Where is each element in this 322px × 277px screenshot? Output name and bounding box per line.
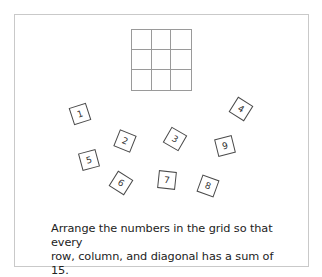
tile-label: 8 (204, 181, 212, 191)
tile-label: 4 (236, 104, 246, 115)
grid-cell-r3-c1[interactable] (132, 70, 152, 90)
tile-label: 5 (85, 155, 93, 165)
grid-cell-r2-c1[interactable] (132, 50, 152, 70)
instructions-line-2: row, column, and diagonal has a sum of 1… (51, 250, 291, 277)
magic-square-grid (131, 29, 192, 91)
tile-label: 2 (121, 136, 130, 146)
grid-cell-r3-c3[interactable] (171, 70, 191, 90)
instructions-line-1: Arrange the numbers in the grid so that … (51, 222, 291, 250)
grid-cell-r2-c2[interactable] (152, 50, 172, 70)
tile-label: 7 (164, 175, 171, 185)
grid-cell-r1-c1[interactable] (132, 30, 152, 50)
number-tile-7[interactable]: 7 (157, 170, 177, 190)
instructions-text: Arrange the numbers in the grid so that … (51, 222, 291, 277)
tile-label: 1 (76, 109, 84, 119)
grid-cell-r1-c3[interactable] (171, 30, 191, 50)
grid-cell-r2-c3[interactable] (171, 50, 191, 70)
tile-label: 9 (221, 141, 229, 151)
grid-cell-r3-c2[interactable] (152, 70, 172, 90)
tile-label: 6 (116, 178, 126, 189)
tile-label: 3 (170, 134, 179, 145)
grid-cell-r1-c2[interactable] (152, 30, 172, 50)
